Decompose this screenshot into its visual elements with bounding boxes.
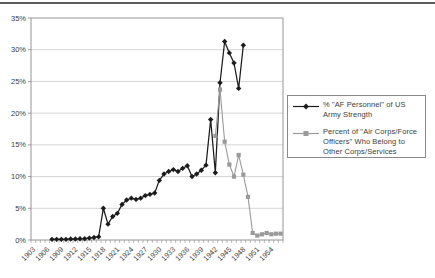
legend-item-af-personnel: % "AF Personnel" of US Army Strength: [293, 100, 422, 120]
series-af-personnel: [49, 39, 246, 242]
svg-text:1954: 1954: [257, 245, 275, 263]
legend-item-other-corps: Percent of "Air Corps/Force Officers" Wh…: [293, 127, 422, 157]
svg-text:35%: 35%: [11, 14, 26, 23]
chart-legend: % "AF Personnel" of US Army Strength Per…: [287, 95, 426, 158]
svg-text:25%: 25%: [11, 77, 26, 86]
svg-text:5%: 5%: [15, 204, 26, 213]
x-axis-labels: 1903190619091912191519181921192419271930…: [19, 245, 275, 263]
legend-label-other-corps: Percent of "Air Corps/Force Officers" Wh…: [323, 127, 422, 157]
legend-label-af-personnel: % "AF Personnel" of US Army Strength: [323, 100, 422, 120]
svg-text:0%: 0%: [15, 236, 26, 245]
svg-text:30%: 30%: [11, 45, 26, 54]
svg-text:15%: 15%: [11, 140, 26, 149]
page: { "page": { "background": "#ffffff", "to…: [0, 0, 435, 278]
svg-text:20%: 20%: [11, 109, 26, 118]
svg-text:10%: 10%: [11, 172, 26, 181]
series2-square-marker-icon: [293, 129, 320, 138]
y-axis-labels: 0%5%10%15%20%25%30%35%: [11, 14, 26, 245]
plot-border: [31, 18, 283, 240]
series-other-corps: [213, 88, 283, 238]
series1-diamond-marker-icon: [293, 102, 320, 111]
